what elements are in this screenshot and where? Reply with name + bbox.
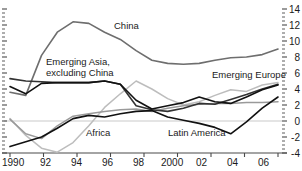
left-axis-ticks (2, 9, 7, 153)
series-label-latin-america: Latin America (168, 128, 226, 139)
series-label-china: China (114, 21, 139, 32)
ytick-label-0: 0 (294, 116, 300, 127)
chart-plot-area (0, 0, 302, 171)
series-label-africa: Africa (86, 128, 110, 139)
xtick-label-04: 04 (227, 157, 238, 168)
ytick-label-4: 4 (294, 84, 300, 95)
ytick-label-minus2: -2 (291, 132, 300, 143)
ytick-label-6: 6 (294, 68, 300, 79)
xtick-label-06: 06 (258, 157, 269, 168)
xtick-label-94: 94 (71, 157, 82, 168)
ytick-label-2: 2 (294, 100, 300, 111)
right-axis-ticks (282, 9, 287, 153)
series-group (10, 22, 278, 152)
line-chart: 14 12 10 8 6 4 2 0 -2 -4 1990 92 94 96 9… (0, 0, 302, 171)
xtick-label-98: 98 (133, 157, 144, 168)
xtick-label-1990: 1990 (2, 157, 24, 168)
series-label-emerging-europe: Emerging Europe (212, 70, 286, 81)
ytick-label-10: 10 (289, 36, 300, 47)
ytick-label-8: 8 (294, 52, 300, 63)
xtick-label-96: 96 (102, 157, 113, 168)
xtick-label-92: 92 (40, 157, 51, 168)
xtick-label-02: 02 (196, 157, 207, 168)
ytick-label-minus4: -4 (291, 148, 300, 159)
series-label-emerging-asia-line2: excluding China (46, 68, 114, 79)
ytick-label-14: 14 (289, 4, 300, 15)
ytick-label-12: 12 (289, 20, 300, 31)
series-label-emerging-asia-line1: Emerging Asia, (46, 57, 110, 68)
xtick-label-2000: 2000 (161, 157, 183, 168)
